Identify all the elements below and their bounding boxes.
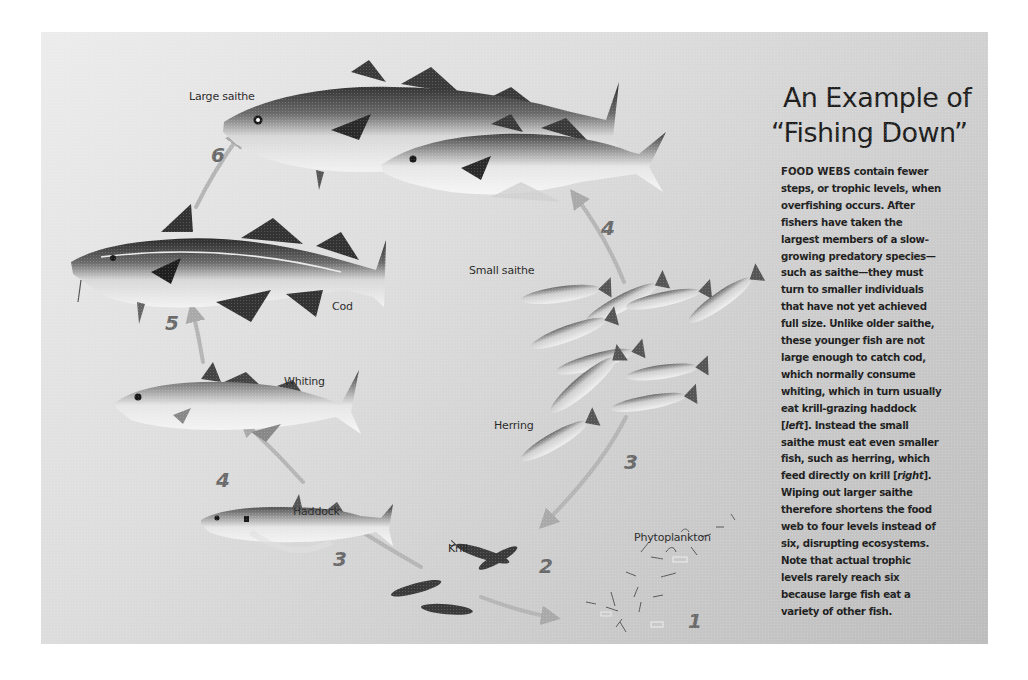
title-line-1: An Example of (771, 80, 981, 115)
arrow-phytoplankton-to-krill (481, 597, 551, 617)
herring-school-illustration (516, 263, 767, 468)
arrow-whiting-to-cod (193, 312, 203, 362)
level-number-herring: 3 (624, 450, 638, 474)
page-title: An Example of “Fishing Down” (771, 80, 981, 150)
level-number-cod: 5 (165, 311, 179, 335)
label-small-saithe: Small saithe (469, 264, 534, 277)
label-krill: Krill (448, 542, 468, 555)
level-number-phytoplankton: 1 (688, 609, 702, 633)
label-haddock: Haddock (293, 505, 340, 518)
level-number-whiting: 4 (216, 468, 230, 492)
label-whiting: Whiting (284, 375, 325, 388)
label-large-saithe: Large saithe (189, 90, 255, 103)
label-phytoplankton: Phytoplankton (634, 531, 711, 544)
level-number-krill: 2 (539, 554, 553, 578)
label-herring: Herring (494, 419, 534, 432)
haddock-illustration (201, 494, 393, 550)
body-paragraph: FOOD WEBS contain fewer steps, or trophi… (781, 164, 986, 620)
title-line-2: “Fishing Down” (771, 115, 981, 150)
label-cod: Cod (332, 300, 353, 313)
whiting-illustration (116, 362, 361, 442)
body-lead: FOOD WEBS (781, 166, 851, 177)
infographic-panel: Large saithe Small saithe Cod Whiting Ha… (41, 32, 988, 644)
level-number-haddock: 3 (333, 547, 347, 571)
level-number-large-saithe: 6 (211, 143, 225, 167)
level-number-small-saithe: 4 (601, 216, 615, 240)
arrow-herring-to-small-saithe (576, 197, 624, 282)
